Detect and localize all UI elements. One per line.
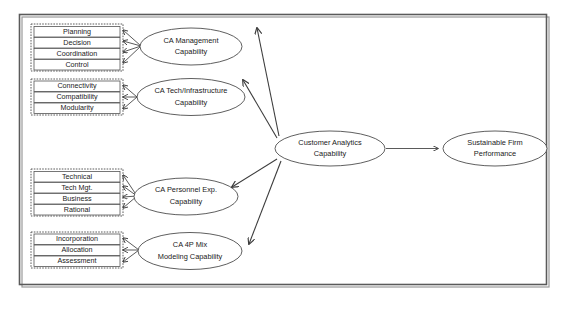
diagram-canvas: Planning Decision Coordination Control C… [0,0,569,309]
model-diagram: Planning Decision Coordination Control C… [0,0,569,309]
indicator-label: Business [62,194,92,203]
arrows-ca-tech-to-indicators [123,85,137,109]
indicator-label: Planning [63,27,91,36]
indicator-label: Connectivity [57,81,97,90]
indicator-group-ca-tech-infrastructure: Connectivity Compatibility Modularity [31,79,123,115]
indicator-group-ca-4p-mix-modeling: Incorporation Allocation Assessment [31,232,123,268]
indicator-label: Decision [63,38,91,47]
outcome-label-line2: Performance [474,149,516,158]
construct-label-line2: Capability [170,197,203,206]
construct-ca-tech-infrastructure-capability: CA Tech/Infrastructure Capability [137,79,245,116]
indicator-label: Control [65,60,89,69]
construct-label-line1: CA 4P Mix [173,240,208,249]
arrows-second-order-to-constructs [232,28,281,244]
indicator-group-ca-management: Planning Decision Coordination Control [31,24,123,71]
construct-customer-analytics-capability: Customer Analytics Capability [275,131,385,166]
arrows-ca-4p-to-indicators [123,238,139,262]
indicator-group-ca-personnel-expertise: Technical Tech Mgt. Business Rational [31,169,123,216]
indicator-label: Allocation [61,245,92,254]
indicator-label: Incorporation [56,234,98,243]
construct-ca-management-capability: CA Management Capability [140,28,242,65]
construct-label-line1: CA Tech/Infrastructure [155,86,228,95]
indicator-label: Compatibility [56,92,98,101]
indicator-label: Rational [64,205,91,214]
indicator-label: Tech Mgt. [61,183,92,192]
indicator-label: Modularity [60,103,94,112]
construct-label-line2: Capability [175,47,208,56]
construct-label-line2: Modeling Capability [158,252,223,261]
arrows-ca-management-to-indicators [123,30,141,63]
construct-ca-personnel-expertise-capability: CA Personnel Exp. Capability [134,178,238,215]
arrows-ca-personnel-to-indicators [123,175,137,208]
indicator-label: Technical [62,172,92,181]
construct-label-line2: Capability [175,98,208,107]
second-order-label-line2: Capability [314,149,347,158]
construct-label-line1: CA Personnel Exp. [155,185,217,194]
indicator-label: Assessment [57,256,96,265]
construct-sustainable-firm-performance: Sustainable Firm Performance [443,131,547,166]
second-order-label-line1: Customer Analytics [298,138,362,147]
construct-label-line1: CA Management [163,36,218,45]
indicator-label: Coordination [57,49,98,58]
outcome-label-line1: Sustainable Firm [467,138,522,147]
construct-ca-4p-mix-modeling-capability: CA 4P Mix Modeling Capability [138,233,242,270]
